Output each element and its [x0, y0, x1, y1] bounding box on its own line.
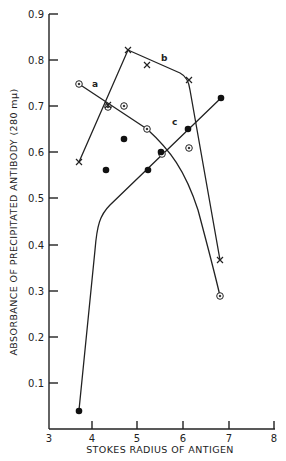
y-tick-0.7: 0.7: [28, 101, 44, 112]
marker-circle-dot-icon: [121, 103, 128, 110]
y-tick-labels: 0.9 0.8 0.7 0.6 0.5 0.4 0.3 0.2 0.1: [28, 9, 44, 389]
marker-circle-dot-icon: [217, 293, 224, 300]
y-axis-title: ABSORBANCE OF PRECIPITATED ANTIBODY (280…: [8, 88, 19, 355]
chart: 0.9 0.8 0.7 0.6 0.5 0.4 0.3 0.2 0.1 3 4 …: [0, 0, 286, 461]
y-tick-0.4: 0.4: [28, 240, 44, 251]
marker-filled-circle-icon: [185, 126, 192, 133]
x-tick-7: 7: [226, 433, 232, 444]
marker-circle-dot-icon: [186, 145, 193, 152]
y-tick-0.1: 0.1: [28, 378, 44, 389]
curve-label-b: b: [161, 53, 168, 63]
curve-a: [79, 84, 220, 296]
x-tick-labels: 3 4 5 6 7 8: [46, 433, 277, 444]
marker-x-icon: [76, 159, 82, 165]
marker-filled-circle-icon: [76, 408, 83, 415]
curve-b: [79, 50, 220, 260]
series-c-markers: [76, 95, 225, 415]
marker-filled-circle-icon: [121, 136, 128, 143]
marker-circle-dot-icon: [76, 81, 83, 88]
y-tick-0.6: 0.6: [28, 147, 44, 158]
x-tick-3: 3: [46, 433, 52, 444]
x-tick-6: 6: [180, 433, 186, 444]
marker-filled-circle-icon: [158, 149, 165, 156]
x-tick-5: 5: [134, 433, 140, 444]
y-tick-0.9: 0.9: [28, 9, 44, 20]
marker-filled-circle-icon: [103, 167, 110, 174]
marker-circle-dot-icon: [144, 126, 151, 133]
x-tick-4: 4: [89, 433, 95, 444]
series-a-markers: [76, 81, 224, 300]
curves: [79, 50, 221, 410]
curve-label-c: c: [172, 117, 177, 127]
y-tick-0.3: 0.3: [28, 286, 44, 297]
curve-label-a: a: [92, 79, 98, 89]
y-tick-0.8: 0.8: [28, 55, 44, 66]
marker-x-icon: [144, 62, 150, 68]
y-tick-0.2: 0.2: [28, 332, 44, 343]
marker-filled-circle-icon: [218, 95, 225, 102]
marker-filled-circle-icon: [145, 167, 152, 174]
marker-x-icon: [125, 47, 131, 53]
x-axis-title: STOKES RADIUS OF ANTIGEN: [86, 444, 234, 455]
x-tick-8: 8: [271, 433, 277, 444]
y-tick-0.5: 0.5: [28, 193, 44, 204]
